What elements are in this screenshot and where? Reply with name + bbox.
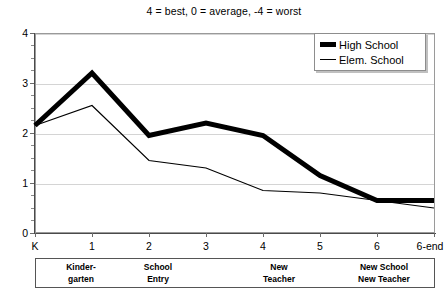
legend-label-high-school: High School bbox=[337, 39, 398, 51]
y-tick-minor-10 bbox=[31, 195, 34, 196]
phase-new-teacher-line2: Teacher bbox=[263, 273, 295, 285]
y-tick-minor-9 bbox=[31, 170, 34, 171]
phase-kindergarten-line2: garten bbox=[66, 273, 96, 285]
phase-new-teacher: New Teacher bbox=[263, 261, 295, 285]
gridline-y1 bbox=[36, 184, 434, 185]
x-axis bbox=[35, 233, 436, 234]
gridline-y2 bbox=[36, 134, 434, 135]
legend: High School Elem. School bbox=[314, 33, 426, 71]
x-tick-label-2: 2 bbox=[146, 240, 152, 252]
y-tick-minor-2 bbox=[31, 58, 34, 59]
x-tick-3 bbox=[206, 233, 207, 237]
x-tick-0 bbox=[35, 233, 36, 237]
y-axis bbox=[34, 33, 35, 234]
y-tick-4 bbox=[30, 33, 34, 34]
legend-swatch-thin-line-icon bbox=[319, 59, 337, 60]
x-tick-label-3: 3 bbox=[203, 240, 209, 252]
y-tick-label-3: 3 bbox=[2, 78, 28, 88]
y-tick-minor-11 bbox=[31, 208, 34, 209]
x-tick-5 bbox=[320, 233, 321, 237]
legend-item-high-school[interactable]: High School bbox=[319, 37, 421, 52]
x-tick-label-5: 5 bbox=[317, 240, 323, 252]
chart-title: 4 = best, 0 = average, -4 = worst bbox=[0, 5, 448, 17]
y-tick-minor-6 bbox=[31, 120, 34, 121]
y-tick-minor-7 bbox=[31, 145, 34, 146]
gridline-y3 bbox=[36, 84, 434, 85]
chart-root: 4 = best, 0 = average, -4 = worst 4 3 2 … bbox=[0, 0, 448, 292]
x-tick-label-6-end: 6-end bbox=[417, 240, 444, 252]
x-tick-label-4: 4 bbox=[260, 240, 266, 252]
legend-label-elem-school: Elem. School bbox=[337, 54, 404, 66]
phase-new-school-new-teacher-line2: New Teacher bbox=[358, 273, 410, 285]
x-tick-2 bbox=[149, 233, 150, 237]
x-tick-6 bbox=[377, 233, 378, 237]
legend-item-elem-school[interactable]: Elem. School bbox=[319, 52, 421, 67]
y-tick-minor-1 bbox=[31, 45, 34, 46]
y-tick-minor-12 bbox=[31, 220, 34, 221]
phase-annotation-band: Kinder- garten School Entry New Teacher … bbox=[35, 258, 435, 288]
phase-kindergarten-line1: Kinder- bbox=[66, 261, 96, 273]
y-tick-label-2: 2 bbox=[2, 128, 28, 138]
y-tick-0 bbox=[30, 233, 34, 234]
y-tick-minor-3 bbox=[31, 70, 34, 71]
y-tick-minor-5 bbox=[31, 108, 34, 109]
y-tick-1 bbox=[30, 183, 34, 184]
phase-new-teacher-line1: New bbox=[263, 261, 295, 273]
y-tick-minor-4 bbox=[31, 95, 34, 96]
phase-new-school-new-teacher: New School New Teacher bbox=[358, 261, 410, 285]
legend-swatch-thick-line-icon bbox=[319, 42, 337, 47]
phase-new-school-new-teacher-line1: New School bbox=[358, 261, 410, 273]
y-tick-label-0: 0 bbox=[2, 228, 28, 238]
x-tick-4 bbox=[263, 233, 264, 237]
phase-school-entry: School Entry bbox=[144, 261, 172, 285]
y-tick-2 bbox=[30, 133, 34, 134]
y-tick-label-1: 1 bbox=[2, 178, 28, 188]
phase-kindergarten: Kinder- garten bbox=[66, 261, 96, 285]
x-tick-7 bbox=[434, 233, 435, 237]
y-tick-3 bbox=[30, 83, 34, 84]
x-tick-label-K: K bbox=[31, 240, 38, 252]
y-tick-label-4: 4 bbox=[2, 28, 28, 38]
phase-school-entry-line2: Entry bbox=[144, 273, 172, 285]
x-tick-label-1: 1 bbox=[89, 240, 95, 252]
phase-school-entry-line1: School bbox=[144, 261, 172, 273]
y-tick-minor-8 bbox=[31, 158, 34, 159]
x-tick-1 bbox=[92, 233, 93, 237]
x-tick-label-6: 6 bbox=[374, 240, 380, 252]
